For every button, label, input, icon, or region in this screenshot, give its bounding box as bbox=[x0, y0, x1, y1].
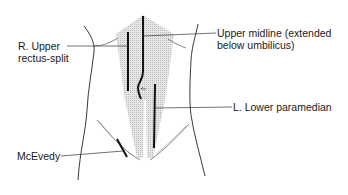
leader-l-lower-paramedian bbox=[155, 107, 232, 108]
label-r-upper-line2: rectus-split bbox=[18, 52, 69, 64]
rectus-shaded-region bbox=[116, 15, 174, 158]
leader-mcevedy bbox=[61, 151, 123, 156]
l-lower-paramedian-incision bbox=[154, 84, 155, 148]
label-r-upper-line1: R. Upper bbox=[18, 40, 69, 52]
label-r-upper-rectus-split: R. Upper rectus-split bbox=[18, 40, 69, 64]
label-mcevedy: McEvedy bbox=[17, 150, 60, 162]
body-outline-right-side bbox=[78, 26, 94, 180]
label-upper-midline: Upper midline (extended below umbilicus) bbox=[217, 27, 331, 51]
costal-margin-right bbox=[94, 38, 118, 46]
label-upper-midline-line1: Upper midline (extended bbox=[217, 27, 331, 39]
inguinal-line-left-2 bbox=[156, 126, 186, 154]
mcevedy-incision bbox=[117, 139, 127, 157]
label-l-lower-paramedian: L. Lower paramedian bbox=[233, 101, 332, 113]
body-outline-left-side bbox=[190, 24, 205, 176]
label-upper-midline-line2: below umbilicus) bbox=[217, 39, 331, 51]
